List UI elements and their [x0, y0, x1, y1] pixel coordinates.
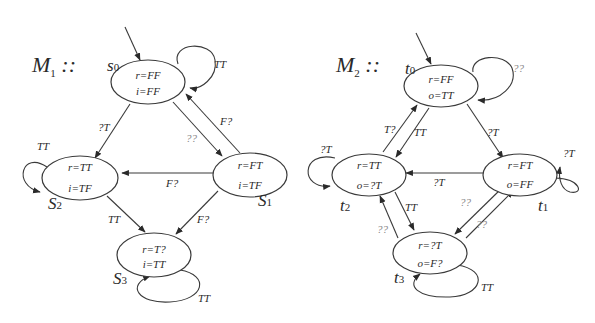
- edge-label-t2-t0: T?: [384, 123, 396, 135]
- machine-m2: M2 :: ?? T? TT ?T ?T ?T ?T TT ?? ?? ?? T…: [308, 33, 578, 297]
- edge-t0-t0-loop: [473, 57, 513, 100]
- edge-label-t2-t2: ?T: [320, 143, 333, 155]
- edge-label-s0-s1: ??: [186, 132, 198, 144]
- state-t0-line1: r=FF: [428, 73, 453, 85]
- state-s1-line2: i=TF: [238, 179, 262, 191]
- edge-label-s0-s0: TT: [214, 58, 227, 70]
- state-s2-line2: i=TF: [68, 182, 92, 194]
- edge-label-t1-t2: ?T: [433, 176, 446, 188]
- state-s0: r=FF i=FF s0: [107, 56, 185, 104]
- edge-label-s2-s3: TT: [108, 213, 121, 225]
- state-t1-line2: o=FF: [507, 178, 534, 190]
- edge-t1-t1-loop: [555, 167, 578, 192]
- state-t3-line2: o=F?: [417, 257, 443, 269]
- state-t2-line1: r=TT: [357, 159, 382, 171]
- machine-title-m1: M1 ::: [31, 52, 76, 79]
- edge-s0-s1: [173, 102, 222, 156]
- edge-t2-t2-loop: [308, 157, 335, 186]
- state-t1-name: t1: [538, 196, 548, 215]
- edge-label-t0-t2: TT: [414, 126, 427, 138]
- machine-m1: M1 :: TT ?T ?? F? F? TT TT F? TT r=FF i=…: [23, 27, 287, 304]
- edge-label-t0-t0: ??: [513, 62, 525, 74]
- edge-label-t3-t1: ??: [476, 218, 488, 230]
- state-s2-line1: r=TT: [68, 161, 93, 173]
- state-s1: r=FT i=TF S1: [213, 153, 287, 210]
- state-s1-line1: r=FT: [238, 159, 263, 171]
- edge-label-s0-s2: ?T: [98, 121, 111, 133]
- edge-label-t1-t3: ??: [460, 196, 472, 208]
- state-t0: r=FF o=TT t0: [404, 59, 478, 107]
- diagram-canvas: M1 :: TT ?T ?? F? F? TT TT F? TT r=FF i=…: [0, 0, 595, 323]
- state-t2-line2: o=?T: [357, 179, 382, 191]
- edge-label-t0-t1: ?T: [487, 126, 500, 138]
- edge-label-s1-s2: F?: [165, 177, 179, 189]
- state-t2-name: t2: [340, 196, 350, 215]
- state-s3: r=T? i=TT S3: [113, 233, 191, 288]
- edge-t3-t1: [466, 191, 513, 238]
- edge-label-s2-s2: TT: [37, 140, 50, 152]
- state-t2: r=TT o=?T t2: [332, 154, 406, 215]
- state-s3-line2: i=TT: [143, 258, 167, 270]
- state-s3-line1: r=T?: [142, 243, 166, 255]
- state-t0-line2: o=TT: [428, 89, 454, 101]
- edge-initial-t0: [416, 33, 431, 64]
- edge-label-t2-t3: TT: [405, 201, 418, 213]
- state-t1: r=FT o=FF t1: [483, 154, 557, 215]
- edge-label-t3-t2: ??: [377, 223, 389, 235]
- edge-label-s3-s3: TT: [198, 292, 211, 304]
- edge-label-s1-s3: F?: [196, 213, 210, 225]
- machine-title-m2: M2 ::: [335, 52, 380, 79]
- edge-initial-s0: [125, 27, 140, 60]
- edge-label-s1-s0: F?: [219, 115, 233, 127]
- state-t3: r=?T o=F? t3: [393, 232, 467, 287]
- state-t0-name: t0: [405, 59, 416, 78]
- state-s0-line1: r=FF: [135, 69, 160, 81]
- state-s0-name: s0: [107, 56, 120, 75]
- edge-label-t3-t3: TT: [481, 281, 494, 293]
- state-s2: r=TT i=TF S2: [42, 156, 118, 213]
- state-machines-svg: M1 :: TT ?T ?? F? F? TT TT F? TT r=FF i=…: [0, 0, 595, 323]
- edge-label-t1-t1: ?T: [563, 147, 576, 159]
- state-t3-name: t3: [394, 268, 405, 287]
- state-s3-name: S3: [113, 269, 128, 288]
- state-s0-line2: i=FF: [136, 85, 160, 97]
- state-t3-line1: r=?T: [418, 239, 442, 251]
- state-t1-line1: r=FT: [508, 159, 533, 171]
